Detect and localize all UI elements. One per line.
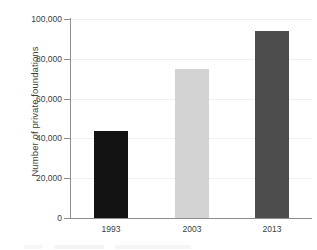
- caption-clipped-text: [24, 245, 214, 249]
- y-tick-label-20000: 20,000: [4, 173, 62, 183]
- bar-2003[interactable]: [175, 69, 209, 218]
- y-tick-label-60000: 60,000: [4, 94, 62, 104]
- y-tick-label-0: 0: [4, 213, 62, 223]
- bar-2013[interactable]: [255, 31, 289, 218]
- y-tick-label-40000: 40,000: [4, 133, 62, 143]
- y-tick-label-100000: 100,000: [4, 14, 62, 24]
- bar-1993[interactable]: [94, 131, 128, 218]
- x-axis-line: [70, 218, 312, 219]
- bar-chart-figure: Number of private foundations 020,00040,…: [0, 0, 317, 250]
- x-tick-label-2013: 2013: [242, 224, 302, 234]
- x-tick-label-1993: 1993: [81, 224, 141, 234]
- y-tick-label-80000: 80,000: [4, 54, 62, 64]
- x-tick-label-2003: 2003: [162, 224, 222, 234]
- plot-area: [71, 19, 312, 218]
